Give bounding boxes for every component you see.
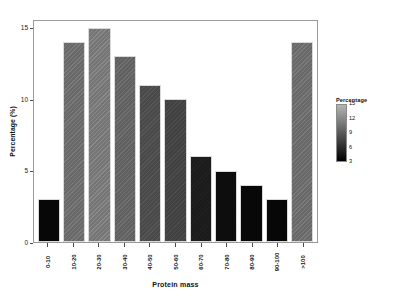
x-axis-tick	[86, 243, 112, 247]
x-axis-tick	[112, 243, 138, 247]
x-axis-tick-mark	[303, 243, 304, 247]
plot-panel	[33, 20, 318, 243]
bar[interactable]	[266, 199, 288, 242]
x-axis-tick-label-slot: 80-90	[239, 248, 265, 280]
x-axis-tick-label: 80-90	[249, 254, 255, 269]
x-axis-tick-label: 30-40	[121, 254, 127, 269]
x-axis-tick-label-slot: 30-40	[112, 248, 138, 280]
x-axis-tick-label: 70-80	[224, 254, 230, 269]
x-axis-tick	[214, 243, 240, 247]
x-axis-tick-mark	[124, 243, 125, 247]
x-axis-tick-mark	[175, 243, 176, 247]
x-axis-tick-label: 0-10	[45, 256, 51, 268]
x-axis-tick-label: 20-30	[96, 254, 102, 269]
legend-colorbar	[336, 104, 347, 162]
legend-tick-labels: 1512963	[349, 104, 379, 162]
bar-slot	[137, 21, 162, 242]
bar-slot	[61, 21, 86, 242]
x-axis-tick-label-slot: 90-100	[265, 248, 291, 280]
x-axis-tick-label-slot: 10-20	[61, 248, 87, 280]
legend-body: 1512963	[336, 104, 394, 162]
x-axis-tick-mark	[252, 243, 253, 247]
x-axis-tick-label: >100	[300, 255, 306, 269]
x-axis-tick-mark	[201, 243, 202, 247]
plot-area	[34, 21, 317, 242]
x-axis-tick-label-slot: 50-60	[163, 248, 189, 280]
legend: Percentage 1512963	[336, 97, 394, 169]
x-axis-tick-label-slot: >100	[290, 248, 316, 280]
x-axis-tick-label-slot: 40-50	[137, 248, 163, 280]
bar[interactable]	[88, 28, 110, 242]
legend-title: Percentage	[336, 97, 394, 103]
x-axis: 0-1010-2020-3030-4040-5050-6060-7070-808…	[33, 243, 318, 281]
x-axis-tick	[239, 243, 265, 247]
bar[interactable]	[63, 42, 85, 242]
bar[interactable]	[114, 56, 136, 242]
x-axis-tick-mark	[226, 243, 227, 247]
y-axis: 051015	[0, 20, 33, 243]
x-axis-tick	[265, 243, 291, 247]
x-axis-tick-mark	[73, 243, 74, 247]
x-axis-tick-label: 60-70	[198, 254, 204, 269]
bar[interactable]	[215, 171, 237, 242]
bar-slot	[290, 21, 315, 242]
x-axis-ticks	[35, 243, 316, 247]
bar-slot	[188, 21, 213, 242]
bar[interactable]	[291, 42, 313, 242]
bar[interactable]	[164, 99, 186, 242]
bar-slot	[112, 21, 137, 242]
x-axis-tick	[163, 243, 189, 247]
bar-slot	[239, 21, 264, 242]
y-axis-tick-label: 10	[21, 97, 30, 104]
x-axis-tick-label: 40-50	[147, 254, 153, 269]
bar[interactable]	[139, 85, 161, 242]
x-axis-tick-mark	[47, 243, 48, 247]
x-axis-tick-label-slot: 60-70	[188, 248, 214, 280]
bar-slot	[264, 21, 289, 242]
x-axis-tick-mark	[98, 243, 99, 247]
bar-slot	[163, 21, 188, 242]
y-axis-tick-label: 15	[21, 25, 30, 32]
x-axis-tick	[290, 243, 316, 247]
x-axis-tick-label: 10-20	[70, 254, 76, 269]
bar-slot	[36, 21, 61, 242]
bar[interactable]	[240, 185, 262, 242]
bar[interactable]	[38, 199, 60, 242]
x-axis-tick	[188, 243, 214, 247]
x-axis-tick-label-slot: 70-80	[214, 248, 240, 280]
bars-group	[36, 21, 315, 242]
x-axis-tick-mark	[149, 243, 150, 247]
x-axis-tick	[61, 243, 87, 247]
bar[interactable]	[190, 156, 212, 242]
bar-chart-figure: Percentage (%) 051015 0-1010-2020-3030-4…	[0, 0, 395, 298]
x-axis-tick-label: 90-100	[275, 253, 281, 272]
x-axis-tick-label: 50-60	[173, 254, 179, 269]
x-axis-tick-mark	[277, 243, 278, 247]
x-axis-tick	[137, 243, 163, 247]
bar-slot	[87, 21, 112, 242]
x-axis-tick	[35, 243, 61, 247]
x-axis-tick-labels: 0-1010-2020-3030-4040-5050-6060-7070-808…	[35, 248, 316, 280]
x-axis-tick-label-slot: 20-30	[86, 248, 112, 280]
x-axis-title: Protein mass	[33, 281, 318, 288]
x-axis-tick-label-slot: 0-10	[35, 248, 61, 280]
bar-slot	[214, 21, 239, 242]
